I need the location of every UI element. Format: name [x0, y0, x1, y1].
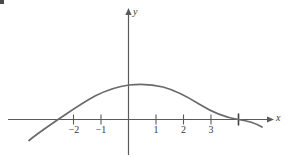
y-axis-label: y — [133, 6, 137, 17]
x-tick-label-minus1: −1 — [93, 124, 109, 135]
x-tick-label-minus2: −2 — [66, 124, 82, 135]
x-tick-label-3: 3 — [204, 124, 218, 135]
x-tick-label-2: 2 — [177, 124, 191, 135]
x-axis-arrowhead — [267, 116, 274, 122]
figure-graph-of-function: −2 −1 1 2 3 x y — [0, 0, 289, 162]
x-tick-label-1: 1 — [149, 124, 163, 135]
function-curve — [29, 84, 262, 140]
x-axis-label: x — [276, 112, 280, 123]
y-axis-arrowhead — [125, 8, 131, 15]
plot-canvas — [0, 0, 289, 162]
y-axis — [125, 8, 131, 155]
